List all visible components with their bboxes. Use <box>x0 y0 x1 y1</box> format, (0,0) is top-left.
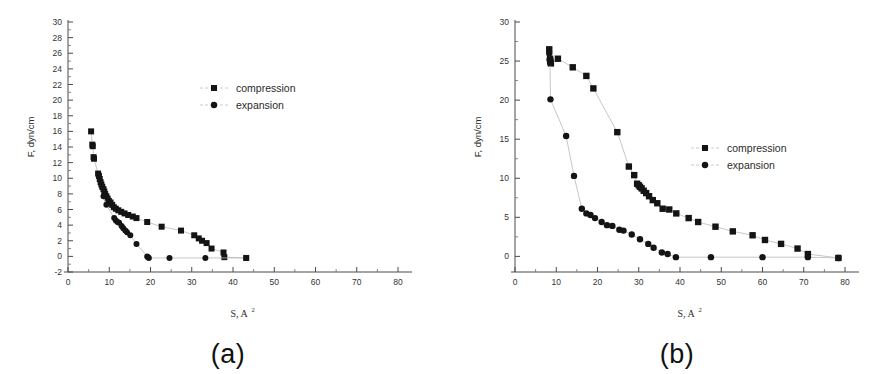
plot-b: 01020304050607080051015202530S, A2F, dyn… <box>437 0 873 340</box>
y-tick-label: -2 <box>54 267 62 277</box>
data-point-circle <box>637 236 643 242</box>
y-tick-label: 30 <box>500 17 510 27</box>
data-point-square <box>90 143 96 149</box>
data-point-circle <box>708 254 714 260</box>
data-point-square <box>614 129 620 135</box>
legend-label-compression: compression <box>236 82 296 94</box>
data-point-square <box>221 254 227 260</box>
data-point-circle <box>604 222 610 228</box>
y-tick-label: 6 <box>57 205 62 215</box>
data-point-circle <box>166 255 172 261</box>
y-tick-label: 10 <box>500 173 510 183</box>
data-point-square <box>178 228 184 234</box>
data-point-circle <box>664 251 670 257</box>
y-tick-label: 12 <box>53 158 63 168</box>
y-tick-label: 16 <box>53 126 63 136</box>
legend: compressionexpansion <box>691 142 787 171</box>
data-point-circle <box>609 223 615 229</box>
data-point-circle <box>127 232 133 238</box>
data-point-circle <box>103 202 109 208</box>
panel-a-caption: (a) <box>0 339 446 370</box>
y-tick-label: 14 <box>53 142 63 152</box>
legend-marker-square <box>702 145 708 151</box>
x-axis-title: S, A <box>230 308 248 319</box>
data-point-circle <box>645 241 651 247</box>
data-point-circle <box>563 133 569 139</box>
x-tick-label: 20 <box>146 277 156 287</box>
y-tick-label: 18 <box>53 111 63 121</box>
data-point-square <box>778 241 784 247</box>
y-tick-label: 26 <box>53 48 63 58</box>
series-compression <box>88 128 249 261</box>
data-point-circle <box>100 193 106 199</box>
y-tick-label: 8 <box>57 189 62 199</box>
y-axis-title: F, dyn/cm <box>472 117 483 158</box>
plot-a: 01020304050607080-2024681012141618202224… <box>0 0 436 340</box>
series-expansion <box>100 193 249 261</box>
data-point-square <box>91 156 97 162</box>
x-tick-label: 0 <box>513 277 518 287</box>
data-point-square <box>583 73 589 79</box>
y-tick-label: 10 <box>53 173 63 183</box>
series-line-compression <box>91 131 246 258</box>
data-point-circle <box>759 254 765 260</box>
data-point-circle <box>620 227 626 233</box>
x-tick-label: 60 <box>758 277 768 287</box>
y-axis-title: F, dyn/cm <box>25 117 36 158</box>
y-tick-label: 0 <box>504 251 509 261</box>
data-point-circle <box>579 206 585 212</box>
data-point-square <box>133 215 139 221</box>
y-tick-label: 5 <box>504 212 509 222</box>
y-tick-label: 22 <box>53 80 63 90</box>
legend-marker-square <box>211 85 217 91</box>
x-tick-label: 50 <box>270 277 280 287</box>
data-point-circle <box>243 255 249 261</box>
data-point-square <box>730 228 736 234</box>
x-tick-label: 60 <box>311 277 321 287</box>
data-point-circle <box>598 219 604 225</box>
series-line-compression <box>549 49 838 258</box>
data-point-square <box>144 219 150 225</box>
legend-label-expansion: expansion <box>727 159 775 171</box>
y-tick-label: 25 <box>500 56 510 66</box>
data-point-square <box>631 172 637 178</box>
data-point-circle <box>592 215 598 221</box>
x-tick-label: 80 <box>840 277 850 287</box>
x-axis-title: S, A <box>677 308 695 319</box>
panel-b: 01020304050607080051015202530S, A2F, dyn… <box>437 0 873 374</box>
data-point-square <box>794 245 800 251</box>
y-tick-label: 20 <box>53 95 63 105</box>
y-tick-label: 0 <box>57 251 62 261</box>
data-point-square <box>749 232 755 238</box>
y-tick-label: 28 <box>53 33 63 43</box>
legend-label-expansion: expansion <box>236 99 284 111</box>
legend-marker-circle <box>702 162 708 168</box>
data-point-square <box>159 224 165 230</box>
data-point-circle <box>547 96 553 102</box>
x-tick-label: 40 <box>675 277 685 287</box>
panel-a: 01020304050607080-2024681012141618202224… <box>0 0 436 374</box>
x-tick-label: 30 <box>634 277 644 287</box>
data-point-square <box>712 223 718 229</box>
data-point-square <box>666 206 672 212</box>
data-point-circle <box>571 173 577 179</box>
data-point-square <box>626 163 632 169</box>
y-tick-label: 2 <box>57 236 62 246</box>
data-point-circle <box>673 254 679 260</box>
y-tick-label: 30 <box>53 17 63 27</box>
data-point-square <box>88 128 94 134</box>
y-tick-label: 15 <box>500 134 510 144</box>
x-tick-label: 20 <box>593 277 603 287</box>
data-point-circle <box>659 249 665 255</box>
x-axis-title-superscript: 2 <box>698 306 701 313</box>
data-point-square <box>590 85 596 91</box>
data-point-circle <box>546 50 552 56</box>
data-point-square <box>209 246 215 252</box>
data-point-square <box>673 210 679 216</box>
x-tick-label: 70 <box>352 277 362 287</box>
x-tick-label: 10 <box>552 277 562 287</box>
y-tick-label: 24 <box>53 64 63 74</box>
x-tick-label: 80 <box>393 277 403 287</box>
data-point-square <box>659 206 665 212</box>
figure-container: 01020304050607080-2024681012141618202224… <box>0 0 873 374</box>
